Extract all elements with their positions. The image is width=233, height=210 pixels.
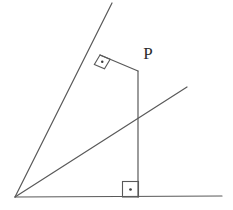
geometry-diagram: P	[0, 0, 233, 210]
geometry-figure-canvas: P	[0, 0, 233, 210]
figure-background	[0, 0, 233, 210]
point-p-label: P	[143, 44, 152, 63]
lower-right-angle-dot	[129, 188, 132, 191]
upper-right-angle-dot	[101, 61, 104, 64]
